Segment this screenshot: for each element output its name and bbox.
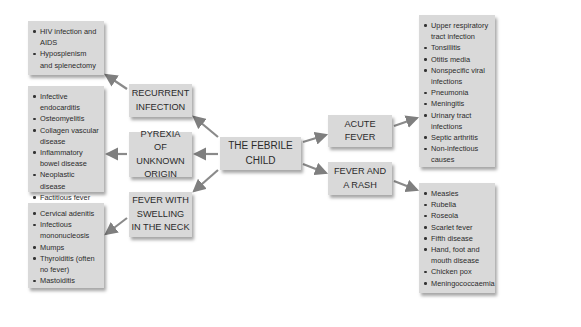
node-fever-and-rash: FEVER AND A RASH [328, 162, 392, 195]
recurrent-infection-causes-list: HIV infection and AIDS Hyposplenism and … [28, 21, 104, 75]
acute-fever-causes-list: Upper respiratory tract infection Tonsil… [419, 15, 495, 167]
list-item: Upper respiratory tract infection [424, 20, 491, 42]
list-item: Otitis media [424, 54, 491, 65]
list-item: Tonsillitis [424, 42, 491, 53]
list-item: Hand, foot and mouth disease [424, 244, 491, 266]
arrow-acute-to-list [394, 118, 417, 126]
list-item: Factitious fever [33, 192, 100, 203]
arrow-rash-to-list [394, 181, 417, 190]
node-recurrent-infection: RECURRENT INFECTION [129, 84, 192, 117]
list-item: Thyroiditis (often no fever) [33, 253, 100, 275]
list-item: Rubella [424, 199, 491, 210]
list-item: Collagen vascular disease [33, 125, 100, 147]
list-item: Nonspecific viral infections [424, 65, 491, 87]
list-item: HIV infection and AIDS [33, 26, 100, 48]
list-item: Non-infectious causes [424, 143, 491, 165]
pyrexia-causes-list: Infective endocarditis Osteomyelitis Col… [28, 86, 104, 192]
node-pyrexia-unknown-origin: PYREXIA OF UNKNOWN ORIGIN [129, 132, 192, 177]
list-item: Hyposplenism and splenectomy [33, 48, 100, 70]
list-item: Infective endocarditis [33, 91, 100, 113]
list-item: Osteomyelitis [33, 113, 100, 124]
arrow-neck-to-list [106, 218, 127, 234]
arrow-center-to-acute [303, 135, 326, 142]
list-item: Neoplastic disease [33, 169, 100, 191]
arrow-center-to-rash [303, 164, 326, 173]
list-item: Meningococcaemia [424, 278, 491, 289]
list-item: Meningitis [424, 98, 491, 109]
list-item: Inflammatory bowel disease [33, 147, 100, 169]
node-febrile-child: THE FEBRILE CHILD [220, 137, 301, 170]
list-item: Septic arthritis [424, 132, 491, 143]
list-item: Pneumonia [424, 87, 491, 98]
fever-rash-causes-list: Measles Rubella Roseola Scarlet fever Fi… [419, 183, 495, 293]
arrow-center-to-neck [194, 170, 218, 191]
node-fever-neck-swelling: FEVER WITH SWELLING IN THE NECK [129, 192, 192, 237]
list-item: Scarlet fever [424, 222, 491, 233]
list-item: Mastoiditis [33, 275, 100, 286]
list-item: Urinary tract infections [424, 110, 491, 132]
arrow-recurrent-to-list [106, 75, 127, 89]
list-item: Infectious mononucleosis [33, 219, 100, 241]
list-item: Measles [424, 188, 491, 199]
list-item: Cervical adenitis [33, 208, 100, 219]
node-acute-fever: ACUTE FEVER [328, 115, 392, 147]
list-item: Roseola [424, 210, 491, 221]
list-item: Chicken pox [424, 266, 491, 277]
arrow-center-to-recurrent [194, 117, 218, 137]
neck-swelling-causes-list: Cervical adenitis Infectious mononucleos… [28, 203, 104, 288]
list-item: Mumps [33, 242, 100, 253]
list-item: Fifth disease [424, 233, 491, 244]
